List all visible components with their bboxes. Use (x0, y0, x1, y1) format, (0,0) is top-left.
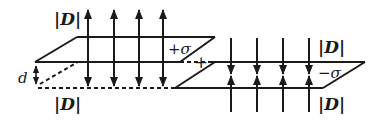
label-d-top-right: |D| (318, 37, 345, 57)
diagram-canvas: |D| |D| |D| |D| +σ −σ d + (0, 0, 386, 125)
label-plus-sigma: +σ (168, 40, 192, 58)
label-plus-sign: + (194, 52, 208, 72)
label-d-bottom-right: |D| (318, 94, 345, 114)
label-minus-sigma: −σ (318, 64, 342, 82)
negative-field-arrows (231, 38, 309, 112)
dashed-projection (38, 62, 212, 88)
label-d-top-left: |D| (54, 9, 81, 29)
label-separation-d: d (18, 69, 28, 87)
positive-field-arrows (88, 10, 163, 86)
label-d-bottom-left: |D| (54, 94, 81, 114)
